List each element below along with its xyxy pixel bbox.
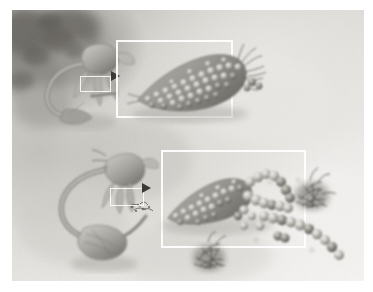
fibrous-tangle-left	[193, 232, 226, 271]
fibrous-tangle-right	[295, 168, 336, 210]
figure-root: Grayscale scientific illustration of mic…	[0, 0, 373, 292]
lower-microbe-detail	[12, 10, 364, 281]
sphere-chain-c	[259, 211, 344, 260]
illustration-canvas	[12, 10, 364, 281]
figure-title: Grayscale scientific illustration of mic…	[0, 0, 1, 1]
